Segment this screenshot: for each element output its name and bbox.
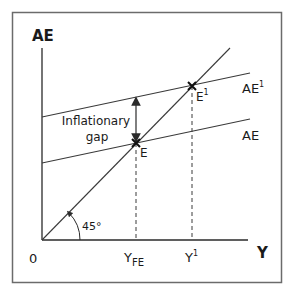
ae1-curve [42, 73, 250, 117]
point-e-label: E [140, 146, 148, 160]
ae-curve-label: AE [242, 128, 259, 143]
yfe-tick-label: YFE [123, 250, 144, 268]
y-axis-label: AE [32, 27, 54, 45]
point-e1-label: E1 [196, 88, 209, 104]
gap-label-line2: gap [86, 130, 109, 144]
angle-arc [69, 213, 80, 240]
gap-label-line1: Inflationary [62, 114, 130, 128]
x-axis-label: Y [256, 244, 269, 262]
y1-tick-label: Y1 [184, 249, 198, 265]
origin-label: 0 [29, 251, 37, 266]
ae1-curve-label: AE1 [242, 80, 264, 96]
angle-label: 45° [82, 220, 102, 233]
keynesian-cross-diagram: AE Y 0 45° Inflationary gap E E1 AE1 AE … [0, 0, 294, 299]
